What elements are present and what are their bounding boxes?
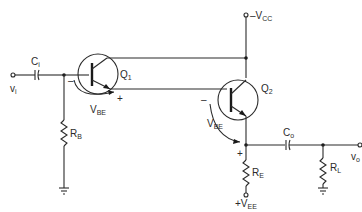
vbe1-minus: –: [68, 75, 74, 86]
vbe2-label: VBE: [207, 118, 223, 130]
vee-label: +VEE: [235, 198, 257, 210]
circuit-diagram: vi Ci RB Q1 – + VBE –VCC: [0, 0, 362, 212]
q1-label: Q1: [120, 69, 132, 81]
resistor-re: [243, 160, 249, 186]
output-label: vo: [351, 151, 360, 163]
ground-icon-rb: [59, 188, 69, 194]
vbe1-label: VBE: [90, 104, 106, 116]
vbe1-plus: +: [117, 93, 123, 104]
re-label: RE: [252, 167, 264, 179]
co-label: Co: [283, 127, 294, 139]
input-label: vi: [10, 83, 17, 95]
resistor-rl: [320, 158, 326, 184]
vcc-label: –VCC: [250, 10, 272, 22]
input-capacitor-ci: [35, 70, 64, 80]
resistor-rb: [61, 120, 67, 146]
vbe2-minus: –: [201, 94, 207, 105]
rb-label: RB: [70, 128, 82, 140]
q2-label: Q2: [261, 83, 273, 95]
vbe2-plus: +: [237, 148, 243, 159]
vcc-node: [244, 56, 248, 60]
ground-icon-rl: [318, 188, 328, 194]
output-terminal: [358, 143, 362, 147]
ci-label: Ci: [31, 56, 40, 68]
rl-label: RL: [330, 162, 341, 174]
transistor-q1: [78, 54, 118, 94]
vbe2-arrow-icon: [233, 139, 240, 144]
input-terminal: [11, 73, 15, 77]
vee-terminal: [244, 193, 248, 197]
vcc-terminal: [244, 13, 248, 17]
vbe1-arrow-icon: [108, 90, 114, 95]
